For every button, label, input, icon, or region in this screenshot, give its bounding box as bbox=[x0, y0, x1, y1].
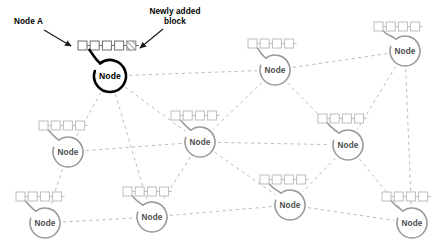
block bbox=[102, 41, 111, 50]
network-edge bbox=[63, 218, 134, 222]
network-node-node-h[interactable]: Node bbox=[137, 202, 167, 232]
block bbox=[260, 175, 269, 184]
block bbox=[272, 175, 281, 184]
blockchain-node-j bbox=[382, 192, 431, 211]
network-node-node-a[interactable]: Node bbox=[94, 60, 126, 92]
network-edge bbox=[218, 142, 330, 144]
network-node-node-d[interactable]: Node bbox=[53, 137, 83, 167]
network-edge bbox=[406, 69, 412, 205]
block bbox=[135, 187, 144, 196]
annotation-label-newly-added-block: Newly added block bbox=[139, 7, 211, 27]
network-node-node-i[interactable]: Node bbox=[275, 190, 305, 220]
annotation-arrow-node-a bbox=[44, 30, 71, 46]
diagram-canvas: NodeNodeNodeNodeNodeNodeNodeNodeNodeNode… bbox=[0, 0, 440, 248]
chain-node-connector bbox=[383, 31, 395, 39]
block bbox=[355, 114, 364, 123]
node-label: Node bbox=[99, 71, 121, 81]
block bbox=[51, 121, 60, 130]
block bbox=[406, 192, 415, 201]
block bbox=[183, 111, 192, 120]
block bbox=[419, 192, 428, 201]
block bbox=[53, 192, 62, 201]
block bbox=[330, 114, 339, 123]
network-node-node-e[interactable]: Node bbox=[185, 127, 215, 157]
chain-node-connector bbox=[25, 201, 35, 211]
network-edge bbox=[115, 94, 146, 200]
block bbox=[272, 39, 281, 48]
chain-node-connector bbox=[391, 201, 402, 211]
block bbox=[260, 39, 269, 48]
network-edge bbox=[86, 143, 182, 150]
chain-node-connector bbox=[257, 48, 265, 58]
chains-layer bbox=[16, 22, 431, 211]
network-edge bbox=[129, 71, 257, 76]
chain-node-connector bbox=[132, 196, 142, 205]
node-label: Node bbox=[265, 66, 286, 75]
network-edge bbox=[303, 158, 336, 192]
block bbox=[248, 39, 257, 48]
block bbox=[90, 41, 99, 50]
network-edge bbox=[293, 54, 387, 68]
block bbox=[123, 187, 132, 196]
chain-node-connector bbox=[327, 123, 338, 133]
block bbox=[374, 22, 383, 31]
chain-node-connector bbox=[180, 120, 190, 130]
block bbox=[171, 111, 180, 120]
network-node-node-f[interactable]: Node bbox=[333, 130, 363, 160]
node-label: Node bbox=[402, 219, 423, 228]
block bbox=[39, 121, 48, 130]
chain-node-connector bbox=[48, 130, 58, 140]
block bbox=[394, 192, 403, 201]
node-label: Node bbox=[142, 213, 163, 222]
block bbox=[147, 187, 156, 196]
network-graph: NodeNodeNodeNodeNodeNodeNodeNodeNodeNode bbox=[0, 0, 440, 248]
node-label: Node bbox=[395, 47, 416, 56]
network-edge bbox=[308, 208, 394, 221]
block bbox=[40, 192, 49, 201]
network-node-node-g[interactable]: Node bbox=[30, 208, 60, 238]
block bbox=[318, 114, 327, 123]
block bbox=[285, 39, 294, 48]
node-label: Node bbox=[35, 219, 56, 228]
blockchain-node-f bbox=[318, 114, 367, 133]
network-node-node-c[interactable]: Node bbox=[390, 36, 420, 66]
block bbox=[382, 192, 391, 201]
nodes-layer: NodeNodeNodeNodeNodeNodeNodeNodeNodeNode bbox=[30, 36, 427, 238]
block bbox=[208, 111, 217, 120]
block bbox=[115, 41, 124, 50]
network-node-node-b[interactable]: Node bbox=[260, 55, 290, 85]
node-label: Node bbox=[338, 141, 359, 150]
chain-node-connector bbox=[89, 50, 100, 63]
block bbox=[63, 121, 72, 130]
network-edge bbox=[215, 152, 276, 194]
network-node-node-j[interactable]: Node bbox=[397, 208, 427, 238]
block bbox=[78, 41, 87, 50]
block bbox=[386, 22, 395, 31]
node-label: Node bbox=[58, 148, 79, 157]
block bbox=[297, 175, 306, 184]
network-edge bbox=[359, 159, 400, 209]
block bbox=[76, 121, 85, 130]
block bbox=[398, 22, 407, 31]
block bbox=[160, 187, 169, 196]
block bbox=[411, 22, 420, 31]
blockchain-node-c bbox=[374, 22, 423, 39]
annotation-label-node-a: Node A bbox=[14, 17, 43, 27]
block bbox=[284, 175, 293, 184]
annotation-arrow-newly-added-block bbox=[140, 29, 163, 48]
block bbox=[28, 192, 37, 201]
network-edge bbox=[125, 87, 185, 131]
network-edge bbox=[213, 82, 262, 129]
block bbox=[342, 114, 351, 123]
node-label: Node bbox=[280, 201, 301, 210]
new-block bbox=[127, 41, 136, 50]
block bbox=[195, 111, 204, 120]
block bbox=[16, 192, 25, 201]
network-edge bbox=[170, 207, 272, 216]
node-label: Node bbox=[190, 138, 211, 147]
